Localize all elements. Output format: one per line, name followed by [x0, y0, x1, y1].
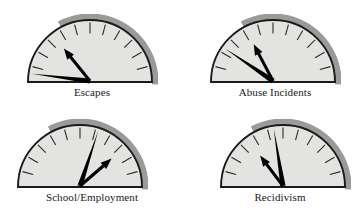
- gauge-label-recidivism: Recidivism: [215, 191, 345, 204]
- gauge-school-employment: [12, 119, 172, 193]
- gauge-dial-abuse-incidents: [205, 14, 341, 88]
- gauge-dial-recidivism: [215, 119, 351, 193]
- gauge-recidivism: [215, 119, 345, 193]
- gauge-abuse-incidents: [205, 14, 345, 88]
- gauge-label-escapes: Escapes: [22, 86, 162, 99]
- gauge-label-school-employment: School/Employment: [12, 191, 172, 204]
- gauge-escapes: [22, 14, 162, 88]
- gauge-label-abuse-incidents: Abuse Incidents: [205, 86, 345, 99]
- gauge-dial-school-employment: [12, 119, 148, 193]
- gauge-dial-escapes: [22, 14, 158, 88]
- gauge-panel-figure: EscapesAbuse IncidentsSchool/EmploymentR…: [0, 0, 361, 224]
